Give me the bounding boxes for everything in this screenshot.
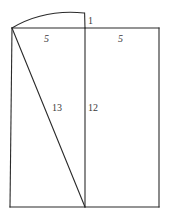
geometry-diagram: 1 5 5 13 12 <box>0 0 169 221</box>
diagonal-hypotenuse-line <box>12 28 85 207</box>
label-top-left-segment: 5 <box>44 34 49 44</box>
label-vertical-length: 12 <box>88 103 98 113</box>
label-top-gap: 1 <box>88 16 93 26</box>
geometry-figure <box>0 0 169 221</box>
left-edge-line <box>10 28 12 207</box>
label-diagonal-length: 13 <box>52 103 62 113</box>
rotation-arc <box>12 12 84 28</box>
label-top-right-segment: 5 <box>118 34 123 44</box>
